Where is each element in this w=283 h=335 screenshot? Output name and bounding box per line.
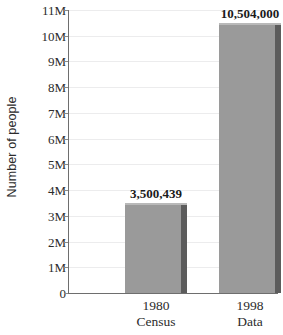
category-label-line2: Data [237, 314, 264, 330]
y-axis-tick-labels: 01M2M3M4M5M6M7M8M9M10M11M [22, 10, 66, 294]
y-axis-tick-label: 10M [26, 29, 66, 42]
bar[interactable] [219, 23, 281, 293]
bar-face [125, 203, 181, 293]
plot-area: 3,500,43910,504,000 [68, 10, 278, 293]
y-axis-title-text: Number of people [5, 96, 19, 197]
y-axis-tick-label: 6M [26, 132, 66, 145]
bar-face [219, 23, 275, 293]
bar-top-highlight [125, 203, 187, 205]
y-axis-tick-label: 4M [26, 184, 66, 197]
category-label-line1: 1980 [142, 298, 169, 313]
y-axis-tick-label: 3M [26, 209, 66, 222]
bar[interactable] [125, 203, 187, 293]
bar-value-label: 10,504,000 [221, 6, 280, 22]
bar-chart: Number of people 01M2M3M4M5M6M7M8M9M10M1… [0, 0, 283, 335]
bar-value-label: 3,500,439 [130, 186, 182, 202]
y-axis-tick-label: 7M [26, 106, 66, 119]
y-axis-tick-label: 5M [26, 158, 66, 171]
x-axis-line [68, 293, 278, 294]
bar-top-highlight [219, 23, 281, 25]
y-axis-line [68, 10, 69, 294]
bar-side-shadow [275, 23, 281, 293]
y-axis-tick-label: 0 [26, 287, 66, 300]
y-axis-title: Number of people [0, 0, 24, 293]
y-axis-tick-label: 11M [26, 4, 66, 17]
y-axis-tick-label: 1M [26, 261, 66, 274]
category-label-line2: Census [136, 314, 175, 330]
bar-side-shadow [181, 203, 187, 293]
x-axis-category-label: 1980Census [136, 298, 175, 331]
category-label-line1: 1998 [237, 298, 264, 313]
y-axis-tick-label: 2M [26, 235, 66, 248]
x-axis-category-label: 1998Data [237, 298, 264, 331]
y-axis-tick-label: 8M [26, 81, 66, 94]
y-axis-tick-label: 9M [26, 55, 66, 68]
